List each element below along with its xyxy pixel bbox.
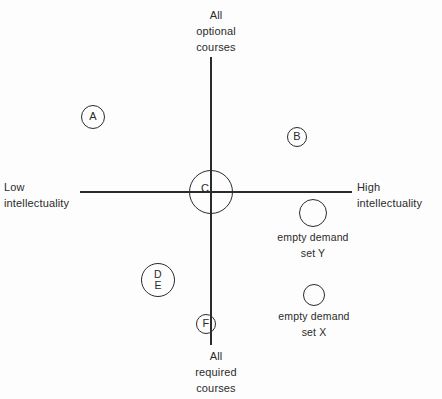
axis-label-bottom: All required courses bbox=[186, 349, 246, 397]
axis-label-right: High intellectuality bbox=[357, 180, 442, 212]
node-b[interactable]: B bbox=[287, 127, 307, 147]
caption-empty-demand-set-y: empty demand set Y bbox=[259, 230, 367, 262]
axis-label-top: All optional courses bbox=[186, 8, 246, 56]
node-empty-demand-set-y[interactable] bbox=[299, 199, 327, 227]
node-c[interactable]: C bbox=[189, 170, 233, 214]
node-f[interactable]: F bbox=[196, 314, 216, 334]
axis-label-left: Low intellectuality bbox=[4, 180, 82, 212]
node-a[interactable]: A bbox=[81, 105, 105, 129]
caption-empty-demand-set-x: empty demand set X bbox=[260, 309, 368, 341]
node-f-label: F bbox=[203, 318, 210, 330]
node-c-label: C bbox=[201, 183, 209, 195]
node-a-label: A bbox=[89, 111, 97, 123]
node-empty-demand-set-x[interactable] bbox=[303, 284, 325, 306]
diagram-canvas: All optional courses All required course… bbox=[0, 0, 442, 399]
node-b-label: B bbox=[293, 131, 301, 143]
node-de[interactable]: D E bbox=[141, 263, 175, 297]
node-e-label: E bbox=[154, 280, 161, 291]
